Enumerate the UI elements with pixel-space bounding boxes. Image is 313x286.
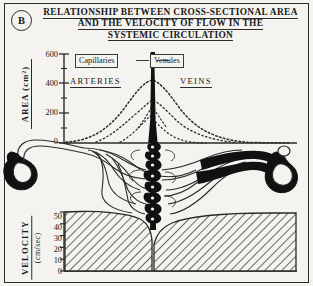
region-label-veins: VEINS bbox=[180, 76, 212, 86]
velocity-area-venous bbox=[154, 213, 296, 271]
area-curve-inner-2 bbox=[120, 116, 206, 143]
velocity-area-group bbox=[65, 211, 296, 271]
area-curve-outer bbox=[66, 80, 290, 143]
area-curve-group bbox=[66, 80, 290, 143]
leader-venules bbox=[157, 60, 169, 61]
figure-panel: B RELATIONSHIP BETWEEN CROSS-SECTIONAL A… bbox=[0, 0, 313, 286]
heart-right bbox=[265, 146, 297, 193]
velocity-area-arterial bbox=[65, 211, 152, 271]
heart-left bbox=[4, 140, 84, 190]
capillary-peak-bar bbox=[148, 60, 157, 143]
area-curve-inner-1 bbox=[96, 100, 236, 143]
callout-capillaries: Capillaries bbox=[75, 54, 118, 68]
diagram-artwork bbox=[0, 0, 313, 286]
leader-capillaries bbox=[136, 60, 149, 61]
arterial-branches bbox=[84, 148, 148, 214]
region-label-arteries: ARTERIES bbox=[70, 76, 121, 86]
